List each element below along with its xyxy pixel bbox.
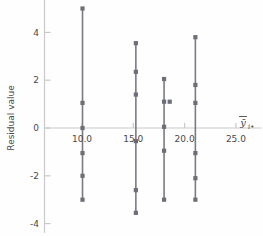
data-point-marker [193, 176, 197, 180]
data-point-marker [193, 101, 197, 105]
x-axis-title-subscript: i• [248, 123, 254, 131]
data-point-marker [162, 198, 166, 202]
y-tick-label: -2 [30, 171, 39, 181]
x-tick-label: 20.0 [175, 134, 195, 144]
data-point-marker [162, 100, 166, 104]
data-point-marker [80, 198, 84, 202]
chart-axes [45, 0, 262, 233]
y-tick-label: 2 [33, 75, 39, 85]
data-point-marker [134, 92, 138, 96]
data-point-marker [162, 77, 166, 81]
data-point-marker [80, 6, 84, 10]
x-axis-title: ȳ [239, 117, 246, 128]
data-point-marker [193, 151, 197, 155]
data-point-marker [193, 35, 197, 39]
chart-series [80, 6, 197, 215]
data-point-marker [134, 70, 138, 74]
y-tick-label: 4 [33, 28, 39, 38]
data-point-marker [134, 211, 138, 215]
data-point-marker [193, 198, 197, 202]
residual-scatter-chart: 420-2-410.015.020.025.0Residual valueȳi• [0, 0, 263, 236]
data-point-marker [193, 83, 197, 87]
data-point-marker [134, 188, 138, 192]
data-point-marker [134, 41, 138, 45]
y-axis-title: Residual value [6, 85, 16, 151]
y-tick-label: 0 [33, 123, 39, 133]
x-tick-label: 15.0 [123, 134, 143, 144]
data-point-marker [162, 149, 166, 153]
y-tick-label: -4 [30, 219, 39, 229]
x-tick-label: 25.0 [226, 134, 246, 144]
residual-plot-figure: 420-2-410.015.020.025.0Residual valueȳi• [0, 0, 263, 236]
data-point-marker [80, 101, 84, 105]
x-tick-label: 10.0 [72, 134, 92, 144]
data-point-marker [80, 126, 84, 130]
data-point-marker [162, 125, 166, 129]
data-point-marker [80, 151, 84, 155]
data-point-marker [80, 174, 84, 178]
data-point-marker [168, 100, 172, 104]
